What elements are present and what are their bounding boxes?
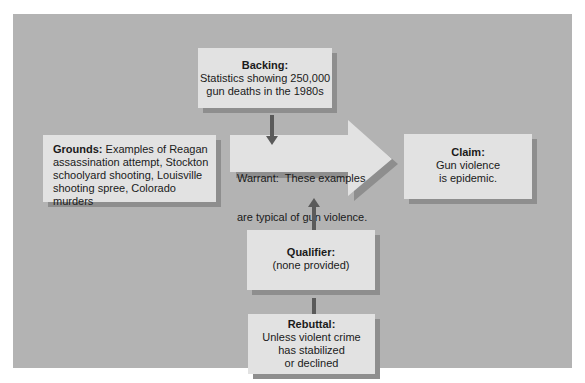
backing-to-warrant-arrow-stem <box>270 115 274 137</box>
rebuttal-text-line-1: Unless violent crime <box>248 331 375 344</box>
qualifier-to-warrant-arrow-stem <box>312 206 316 230</box>
backing-label: Backing: <box>198 59 332 72</box>
claim-box: Claim: Gun violence is epidemic. <box>404 134 532 199</box>
qualifier-box: Qualifier: (none provided) <box>247 230 375 290</box>
rebuttal-text-line-3: or declined <box>248 357 375 370</box>
rebuttal-label: Rebuttal: <box>248 318 375 331</box>
qualifier-text-line-1: (none provided) <box>247 259 375 272</box>
grounds-text-line-3: schoolyard shooting, Louisville <box>53 169 216 182</box>
warrant-text: Warrant: These examples are typical of g… <box>237 146 367 237</box>
qualifier-label: Qualifier: <box>247 246 375 259</box>
grounds-box: Grounds: Examples of Reagan assassinatio… <box>43 135 216 202</box>
warrant-text-line-2: are typical of gun violence. <box>237 211 367 224</box>
claim-text-line-2: is epidemic. <box>404 172 532 185</box>
backing-box: Backing: Statistics showing 250,000 gun … <box>198 48 332 108</box>
warrant-label: Warrant: <box>237 172 279 184</box>
claim-label: Claim: <box>404 146 532 159</box>
arrow-down-icon <box>266 136 278 145</box>
backing-text-line-1: Statistics showing 250,000 <box>198 72 332 85</box>
grounds-text-line-4: shooting spree, Colorado murders <box>53 182 216 208</box>
warrant-text-line-1: These examples <box>279 172 366 184</box>
grounds-text-line-1: Examples of Reagan <box>103 143 208 155</box>
grounds-text-line-2: assassination attempt, Stockton <box>53 156 216 169</box>
grounds-label: Grounds: <box>53 143 103 155</box>
rebuttal-box: Rebuttal: Unless violent crime has stabi… <box>248 314 375 374</box>
rebuttal-connector <box>312 298 316 314</box>
backing-text-line-2: gun deaths in the 1980s <box>198 85 332 98</box>
claim-text-line-1: Gun violence <box>404 159 532 172</box>
rebuttal-text-line-2: has stabilized <box>248 344 375 357</box>
